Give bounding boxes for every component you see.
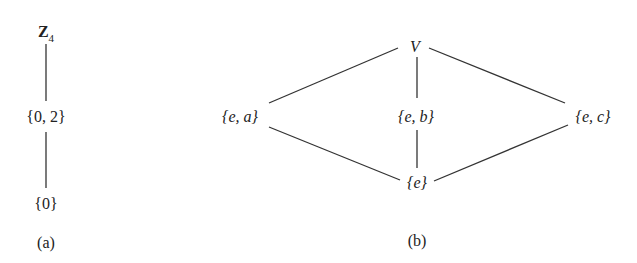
node-e-b-label: {e, b}	[398, 108, 434, 125]
caption-a: (a)	[37, 234, 55, 252]
node-e-label: {e}	[407, 174, 427, 191]
node-e: {e}	[407, 175, 427, 191]
node-z4: Z4	[38, 24, 54, 43]
node-v: V	[410, 39, 420, 55]
edge-ea-e	[269, 127, 400, 180]
caption-b: (b)	[408, 232, 427, 250]
node-e-a-label: {e, a}	[222, 108, 258, 125]
node-z4-subscript: 4	[49, 32, 55, 44]
edge-ec-e	[434, 125, 568, 181]
edge-v-ec	[429, 48, 565, 103]
node-e-c-label: {e, c}	[576, 108, 611, 125]
node-e-a: {e, a}	[222, 109, 258, 125]
node-0: {0}	[34, 196, 57, 212]
node-z4-label: Z	[38, 23, 49, 40]
node-v-label: V	[410, 38, 420, 55]
node-0-2: {0, 2}	[26, 109, 65, 125]
edges-layer	[0, 0, 637, 263]
node-e-c: {e, c}	[576, 109, 611, 125]
node-e-b: {e, b}	[398, 109, 434, 125]
edge-v-ea	[269, 48, 398, 103]
